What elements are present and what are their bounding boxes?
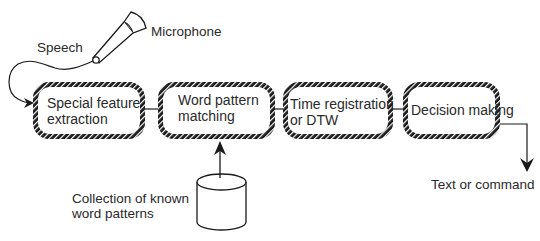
database-label-line2: word patterns [72, 206, 154, 221]
stage-3-line2: or DTW [290, 112, 338, 128]
database-label-line1: Collection of known [72, 191, 189, 206]
output-label: Text or command [431, 177, 535, 192]
speech-label: Speech [37, 40, 83, 55]
stage-4-line1: Decision making [411, 102, 514, 118]
stage-3-line1: Time registration [290, 96, 394, 112]
microphone-label: Microphone [151, 24, 222, 39]
stage-2-line1: Word pattern [178, 92, 259, 108]
database-cylinder-icon [197, 174, 246, 230]
microphone-icon [93, 12, 146, 63]
stage-2-line2: matching [178, 108, 235, 124]
stage-1-line1: Special feature [47, 95, 140, 111]
stage-1-line2: extraction [47, 111, 108, 127]
